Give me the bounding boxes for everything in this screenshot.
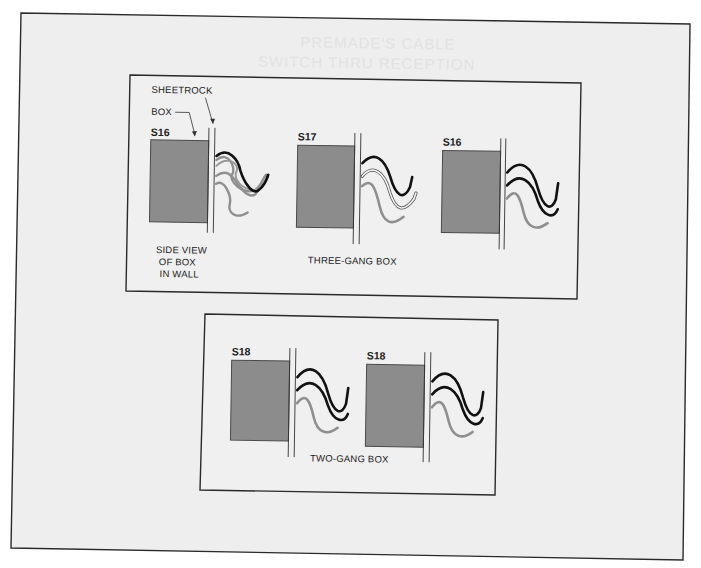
electrical-box-s16 [441, 150, 500, 233]
ghost-line-1: PREMADE'S CABLE [300, 33, 456, 52]
three-gang-caption: THREE-GANG BOX [308, 254, 397, 266]
two-gang-caption: TWO-GANG BOX [310, 452, 389, 464]
side-view-caption-3: IN WALL [160, 268, 199, 280]
box-label: BOX [151, 106, 172, 117]
box-id-label: S18 [232, 345, 251, 357]
electrical-box-s16-side [149, 140, 208, 223]
electrical-box-s18-b [365, 364, 424, 447]
box-id-label: S17 [298, 130, 317, 142]
sheetrock-label: SHEETROCK [151, 84, 213, 96]
box-id-label: S16 [443, 135, 462, 147]
box-id-label: S16 [151, 126, 170, 138]
ghost-line-2: SWITCH THRU RECEPTION [258, 53, 476, 73]
wiring-diagram: PREMADE'S CABLE SWITCH THRU RECEPTION SH… [0, 0, 701, 568]
side-view-caption-2: OF BOX [159, 256, 197, 268]
electrical-box-s17 [296, 145, 354, 228]
diagram-page: PREMADE'S CABLE SWITCH THRU RECEPTION SH… [0, 0, 701, 568]
box-id-label: S18 [367, 349, 386, 361]
side-view-caption-1: SIDE VIEW [156, 244, 207, 256]
electrical-box-s18-a [230, 360, 289, 441]
